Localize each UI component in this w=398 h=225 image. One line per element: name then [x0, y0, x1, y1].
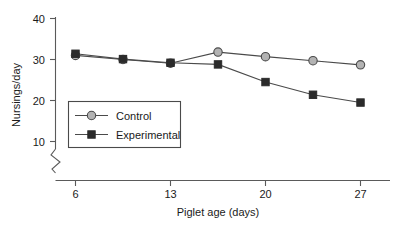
x-axis-group: 6 13 20 27 Piglet age (days)	[56, 181, 391, 219]
chart-figure: 40 30 20 10 Nursings/day 6 13 20 27 Pigl…	[0, 0, 398, 225]
data-point-experimental-20	[262, 78, 269, 85]
y-axis-group: 40 30 20 10 Nursings/day	[10, 13, 60, 174]
data-point-control-16.5	[214, 48, 222, 56]
y-axis-title: Nursings/day	[10, 62, 22, 127]
x-tick-label-6: 6	[72, 188, 78, 200]
legend-box	[69, 102, 181, 148]
series-experimental	[72, 50, 364, 106]
legend: Control Experimental	[69, 102, 181, 148]
data-point-experimental-9.5	[119, 55, 126, 62]
x-tick-label-13: 13	[164, 188, 176, 200]
legend-item-experimental[interactable]: Experimental	[75, 129, 180, 141]
data-point-control-23.5	[309, 57, 317, 65]
y-tick-label-10: 10	[33, 136, 45, 148]
line-chart-canvas: 40 30 20 10 Nursings/day 6 13 20 27 Pigl…	[0, 0, 398, 225]
y-tick-label-20: 20	[33, 95, 45, 107]
legend-label-control: Control	[116, 110, 151, 122]
data-series-layer	[71, 48, 364, 106]
data-point-experimental-16.5	[214, 61, 221, 68]
y-tick-label-40: 40	[33, 13, 45, 25]
legend-marker-circle-icon	[87, 111, 95, 119]
data-point-experimental-27	[357, 99, 364, 106]
data-point-experimental-13	[167, 59, 174, 66]
data-point-control-20	[261, 52, 269, 60]
x-tick-label-27: 27	[354, 188, 366, 200]
data-point-control-27	[356, 61, 364, 69]
x-axis-title: Piglet age (days)	[177, 206, 260, 218]
data-point-experimental-23.5	[309, 91, 316, 98]
y-axis-break-zigzag	[51, 149, 60, 173]
data-point-experimental-6	[72, 50, 79, 57]
legend-label-experimental: Experimental	[116, 129, 180, 141]
legend-marker-square-icon	[88, 131, 95, 138]
x-tick-label-20: 20	[259, 188, 271, 200]
y-tick-label-30: 30	[33, 54, 45, 66]
